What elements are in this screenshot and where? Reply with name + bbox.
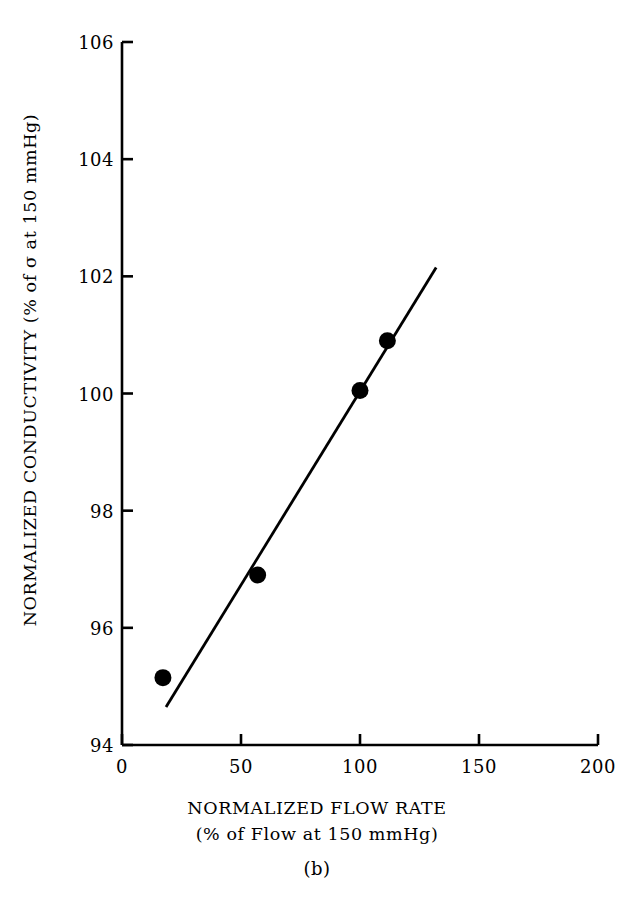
x-tick-label: 50	[229, 756, 253, 777]
x-tick-label: 100	[342, 756, 378, 777]
data-point	[352, 382, 369, 399]
data-points	[154, 332, 395, 686]
data-point	[154, 669, 171, 686]
x-axis-title-line2: (% of Flow at 150 mmHg)	[0, 821, 634, 847]
data-point	[249, 567, 266, 584]
data-point	[379, 332, 396, 349]
x-tick-label: 0	[116, 756, 128, 777]
figure-panel-b: NORMALIZED CONDUCTIVITY (% of σ at 150 m…	[0, 0, 634, 910]
x-axis-tick-labels: 050100150200	[0, 756, 634, 786]
x-axis-title: NORMALIZED FLOW RATE (% of Flow at 150 m…	[0, 795, 634, 847]
fit-line	[166, 268, 436, 707]
x-tick-label: 200	[580, 756, 616, 777]
regression-line	[166, 268, 436, 707]
x-axis-title-line1: NORMALIZED FLOW RATE	[187, 798, 446, 818]
panel-caption: (b)	[0, 858, 634, 879]
x-tick-label: 150	[461, 756, 497, 777]
